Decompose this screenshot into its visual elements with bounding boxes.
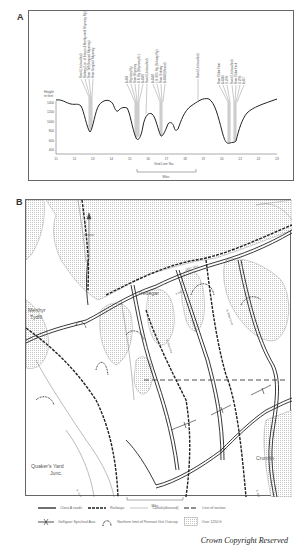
svg-text:400: 400 [49, 148, 55, 152]
svg-text:A 467: A 467 [242, 76, 246, 84]
place-merthyr: Merthyr [28, 307, 46, 313]
svg-text:17: 17 [165, 157, 169, 161]
svg-text:13: 13 [91, 157, 95, 161]
svg-text:20: 20 [220, 157, 224, 161]
y-tick-labels: 1400 1200 1000 800 600 400 [47, 101, 54, 152]
svg-text:G.W.R.: G.W.R. [225, 75, 229, 84]
svg-text:R. Rhymney: R. Rhymney [165, 339, 174, 354]
legend-outcrop-limit: Northern limit of Pennant Grit Outcrop [101, 517, 177, 527]
svg-text:Road (Unclassified): Road (Unclassified) [145, 59, 149, 83]
map-legend: Class A roads Railways Canals(disused) L… [38, 502, 293, 527]
svg-text:11: 11 [54, 157, 58, 161]
syncline-symbol-icon [38, 518, 54, 526]
railway-symbol-icon [88, 506, 106, 510]
legend-row-1: Class A roads Railways Canals(disused) L… [38, 502, 293, 513]
section-line-symbol-icon [184, 506, 198, 510]
place-quakers-junc: Junc. [50, 470, 62, 476]
svg-text:River Bargoed Rhymney: River Bargoed Rhymney [91, 47, 95, 78]
svg-text:15: 15 [128, 157, 132, 161]
legend-section-line: Line of section [184, 506, 225, 510]
svg-text:22: 22 [257, 157, 261, 161]
svg-text:23: 23 [275, 157, 279, 161]
svg-text:R. Ebbw Fawr: R. Ebbw Fawr [225, 309, 234, 326]
outcrop-limit-symbol-icon [101, 517, 113, 527]
panel-b-letter: B [16, 197, 23, 207]
copyright-notice: Crown Copyright Reserved [201, 536, 288, 545]
svg-text:800: 800 [49, 129, 55, 133]
svg-text:600: 600 [49, 139, 55, 143]
panel-a-frame: Height in feet 1400 1200 1000 800 600 40… [28, 10, 294, 181]
stipple-symbol-icon [184, 517, 198, 526]
svg-text:1200: 1200 [47, 110, 54, 114]
svg-text:16: 16 [146, 157, 150, 161]
map: Merthyr Tydfil Tredegar Quaker's Yard Ju… [26, 200, 292, 497]
legend-railways: Railways [88, 506, 124, 510]
svg-text:12: 12 [73, 157, 77, 161]
legend-syncline: Gelligaer Synclinal Axis [38, 518, 95, 526]
legend-over-1250ft: Over 1250 ft [184, 517, 222, 526]
x-tick-labels: 11 12 13 14 15 16 17 18 19 20 21 22 23 [54, 157, 279, 161]
place-quakers-yard: Quaker's Yard [31, 463, 64, 469]
svg-text:1400: 1400 [47, 101, 54, 105]
x-axis-label: Grid Line No. [154, 162, 174, 166]
annotation-labels: Road (Unclassified) Railway (Lon. of Bre… [79, 11, 246, 84]
canal-symbol-icon [130, 506, 148, 510]
svg-text:18: 18 [183, 157, 187, 161]
svg-text:R. Cynon: R. Cynon [75, 489, 84, 498]
scale-label: Miles [162, 175, 170, 179]
place-tredegar: Tredegar [138, 290, 159, 296]
svg-text:1000: 1000 [47, 120, 54, 124]
svg-text:14: 14 [110, 157, 114, 161]
profile-chart: Height in feet 1400 1200 1000 800 600 40… [29, 11, 295, 182]
gelligaer-synclinal-axis [171, 385, 271, 430]
legend-row-2: Gelligaer Synclinal Axis Northern limit … [38, 516, 293, 527]
svg-text:19: 19 [202, 157, 206, 161]
panel-b-map-frame: Merthyr Tydfil Tredegar Quaker's Yard Ju… [25, 199, 291, 496]
over-1250ft-areas [26, 200, 292, 497]
legend-class-a-roads: Class A roads [38, 506, 82, 510]
panel-a-letter: A [17, 12, 24, 22]
svg-text:in feet: in feet [44, 94, 53, 98]
place-crumlin: Crumlin [256, 455, 274, 461]
svg-text:21: 21 [238, 157, 242, 161]
place-tydfil: Tydfil [30, 314, 42, 320]
annotation-leaders [81, 79, 244, 144]
legend-canals: Canals(disused) [130, 506, 178, 510]
scale-bar [137, 169, 196, 172]
svg-text:Road (Unclassified): Road (Unclassified) [196, 54, 200, 78]
class-a-road-symbol-icon [38, 506, 56, 510]
svg-text:A 4048 (Mineral): A 4048 (Mineral) [163, 62, 167, 83]
svg-text:R. Ebbw: R. Ebbw [255, 489, 261, 497]
